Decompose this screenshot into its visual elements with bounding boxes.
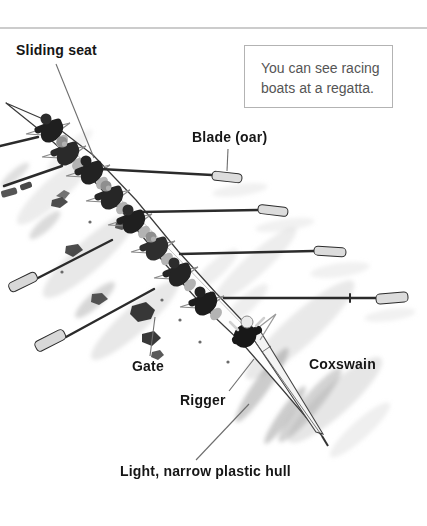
callout-box: You can see racing boats at a regatta. xyxy=(244,45,393,108)
leader-hull xyxy=(196,404,249,460)
label-rigger: Rigger xyxy=(180,392,226,408)
rower-head xyxy=(169,258,180,269)
rower-head xyxy=(41,114,52,125)
callout-line-2: boats at a regatta. xyxy=(261,78,392,98)
rower-head xyxy=(81,156,92,167)
label-blade-oar: Blade (oar) xyxy=(192,129,267,145)
coxswain-cap xyxy=(241,316,253,328)
rower-head xyxy=(195,287,206,298)
label-coxswain: Coxswain xyxy=(309,356,376,372)
rudder xyxy=(322,436,328,446)
label-sliding-seat: Sliding seat xyxy=(16,42,97,58)
book-page: You can see racing boats at a regatta. S… xyxy=(0,0,427,526)
leader-blade-oar xyxy=(227,149,228,171)
label-gate: Gate xyxy=(132,358,164,374)
label-hull: Light, narrow plastic hull xyxy=(120,463,291,479)
rower-head xyxy=(123,205,134,216)
callout-line-1: You can see racing xyxy=(261,58,392,78)
